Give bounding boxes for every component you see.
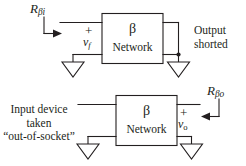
top-output-junction-dot — [176, 52, 180, 56]
top-left-ground-symbol — [62, 62, 84, 77]
top-output-note: Output shorted — [194, 24, 244, 51]
top-rbi-arrowhead — [53, 30, 62, 38]
bottom-resistance-symbol: R — [207, 83, 215, 98]
top-resistance-subscript: βi — [38, 7, 45, 17]
bottom-left-ground-symbol — [77, 144, 99, 159]
top-box-network-label: Network — [102, 41, 163, 53]
top-resistance-symbol: R — [30, 1, 38, 16]
top-output-note-line2: shorted — [194, 38, 244, 52]
bottom-resistance-subscript: βo — [215, 89, 224, 99]
bottom-rbo-arrowhead — [201, 113, 210, 121]
bottom-resistance-label: Rβo — [207, 84, 224, 100]
top-port-minus-sign: – — [85, 45, 92, 61]
bottom-port-minus-sign: – — [180, 127, 187, 143]
bottom-input-note-line3: “out-of-socket” — [2, 130, 76, 144]
top-right-ground-symbol — [168, 62, 190, 77]
bottom-input-note: Input device taken “out-of-socket” — [2, 103, 76, 144]
figure-canvas: Rβi + vf – β Network Output shorted Inpu… — [0, 0, 246, 166]
bottom-input-note-line1: Input device — [2, 103, 76, 117]
bottom-box-network-label: Network — [116, 123, 177, 135]
top-resistance-label: Rβi — [30, 2, 45, 18]
top-output-note-line1: Output — [194, 24, 244, 38]
top-box-beta-label: β — [102, 21, 163, 37]
bottom-box-beta-label: β — [116, 103, 177, 119]
bottom-input-note-line2: taken — [2, 117, 76, 131]
bottom-right-ground-symbol — [181, 144, 203, 159]
